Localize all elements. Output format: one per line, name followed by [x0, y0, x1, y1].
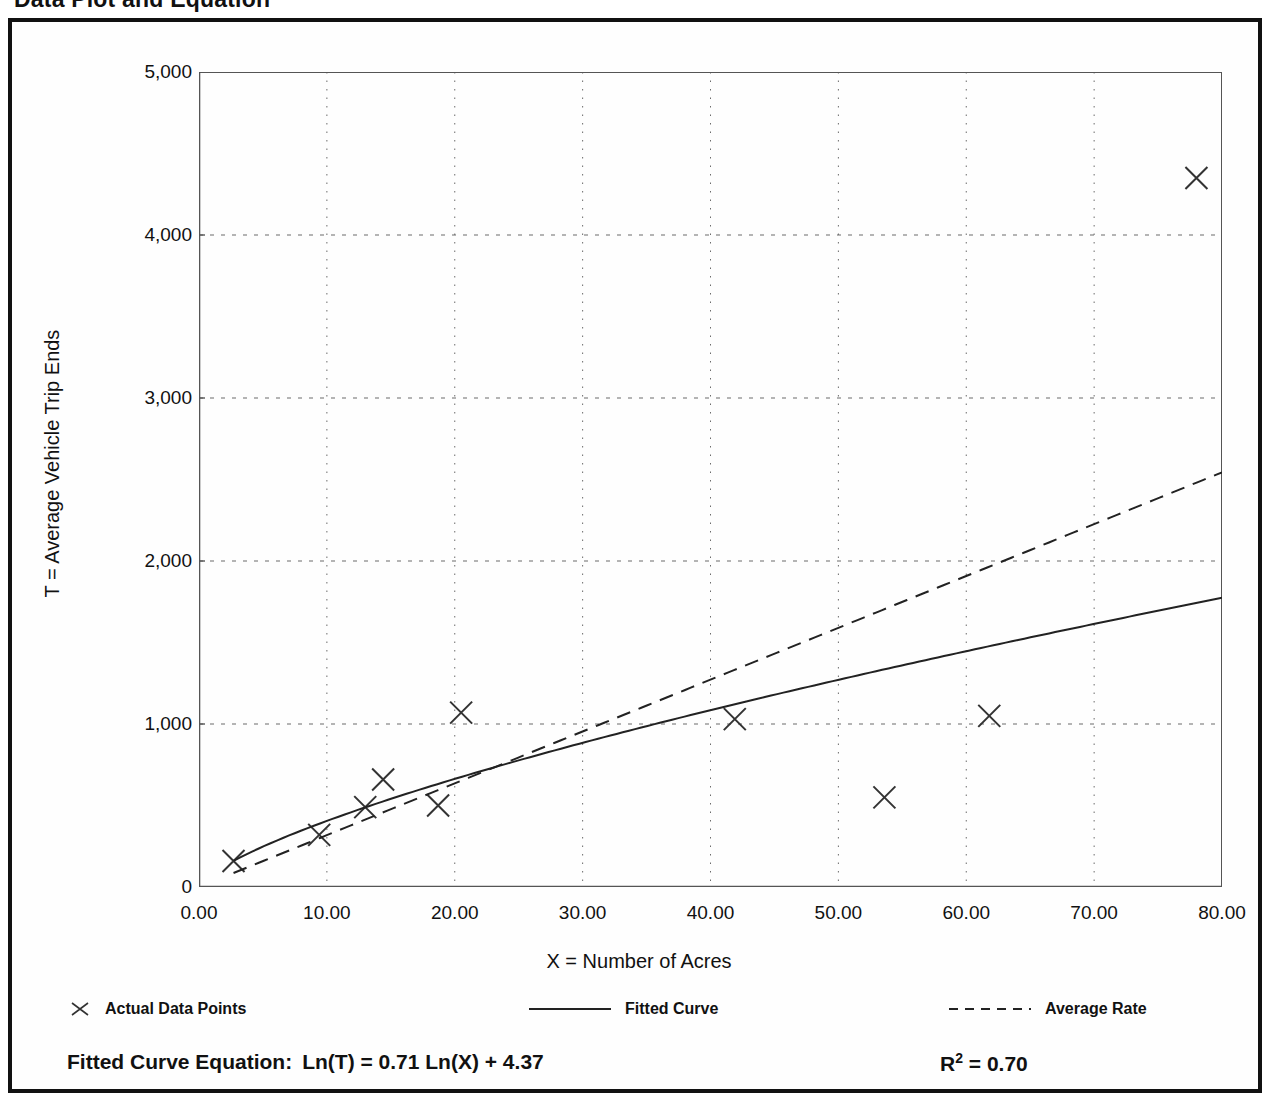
legend-entry-actual-data-points: Actual Data Points — [67, 1000, 246, 1018]
fitted-curve-line — [234, 598, 1222, 861]
legend-label: Average Rate — [1045, 1000, 1147, 1018]
x-tick-label: 40.00 — [687, 902, 735, 924]
x-tick-label: 50.00 — [815, 902, 863, 924]
solid-line-icon — [527, 1000, 613, 1018]
chart-legend: Actual Data Points Fitted Curve Average … — [12, 1000, 1266, 1036]
data-point-group — [223, 167, 1208, 872]
legend-label: Actual Data Points — [105, 1000, 246, 1018]
r-squared-annotation: R2 = 0.70 — [940, 1050, 1028, 1076]
data-point-marker — [450, 702, 472, 724]
y-tick-label: 0 — [181, 876, 192, 898]
data-point-marker — [873, 786, 895, 808]
data-point-marker — [724, 708, 746, 730]
plot-area — [199, 72, 1222, 887]
figure-frame: T = Average Vehicle Trip Ends 01,0002,00… — [8, 18, 1262, 1093]
x-tick-label: 30.00 — [559, 902, 607, 924]
x-tick-label: 80.00 — [1198, 902, 1246, 924]
x-tick-label: 10.00 — [303, 902, 351, 924]
fitted-equation-label: Fitted Curve Equation: — [67, 1050, 292, 1073]
r-squared-value: = 0.70 — [969, 1052, 1028, 1075]
figure-inner: T = Average Vehicle Trip Ends 01,0002,00… — [12, 22, 1258, 1089]
data-point-marker — [372, 768, 394, 790]
x-tick-label: 0.00 — [181, 902, 218, 924]
y-axis-title: T = Average Vehicle Trip Ends — [41, 264, 64, 664]
legend-entry-average-rate: Average Rate — [947, 1000, 1147, 1018]
r-squared-symbol: R — [940, 1052, 955, 1075]
y-tick-label: 2,000 — [144, 550, 192, 572]
average-rate-line — [234, 472, 1222, 873]
dashed-line-icon — [947, 1000, 1033, 1018]
legend-entry-fitted-curve: Fitted Curve — [527, 1000, 718, 1018]
equation-row: Fitted Curve Equation:Ln(T) = 0.71 Ln(X)… — [12, 1050, 1266, 1090]
legend-label: Fitted Curve — [625, 1000, 718, 1018]
fitted-equation-text: Ln(T) = 0.71 Ln(X) + 4.37 — [302, 1050, 544, 1073]
x-tick-label: 70.00 — [1070, 902, 1118, 924]
y-tick-label: 4,000 — [144, 224, 192, 246]
x-tick-label: 20.00 — [431, 902, 479, 924]
y-axis-tick-labels: 01,0002,0003,0004,0005,000 — [72, 72, 192, 907]
x-marker-icon — [67, 1000, 93, 1018]
y-tick-label: 3,000 — [144, 387, 192, 409]
data-point-marker — [1185, 167, 1207, 189]
y-tick-label: 5,000 — [144, 61, 192, 83]
y-tick-label: 1,000 — [144, 713, 192, 735]
r-squared-exponent: 2 — [955, 1050, 963, 1066]
fitted-curve-equation: Fitted Curve Equation:Ln(T) = 0.71 Ln(X)… — [67, 1050, 544, 1074]
x-tick-label: 60.00 — [942, 902, 990, 924]
data-point-marker — [223, 850, 245, 872]
page-title: Data Plot and Equation — [14, 0, 270, 13]
data-point-marker — [427, 795, 449, 817]
data-point-marker — [978, 705, 1000, 727]
plot-svg — [199, 72, 1222, 887]
x-axis-tick-labels: 0.0010.0020.0030.0040.0050.0060.0070.008… — [199, 902, 1222, 932]
x-axis-title: X = Number of Acres — [12, 950, 1266, 973]
